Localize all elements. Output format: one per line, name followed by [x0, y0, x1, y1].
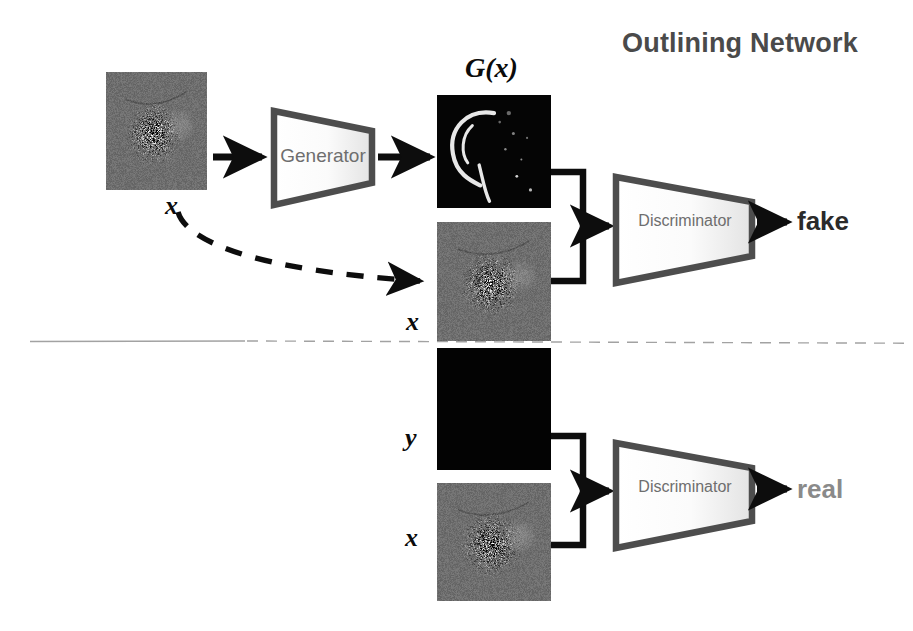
verdict-fake: fake: [797, 206, 849, 237]
bracket-top: [551, 172, 609, 281]
discriminator-node-real[interactable]: [616, 443, 752, 548]
image-ground-truth-y: [437, 348, 551, 470]
page-title: Outlining Network: [622, 28, 858, 59]
caption-gx: G(x): [465, 52, 518, 84]
image-generated-gx: [437, 95, 551, 208]
image-input-x-top: [106, 72, 207, 190]
branch-divider: [30, 341, 905, 343]
generator-node[interactable]: [274, 111, 372, 205]
caption-x-middle: x: [406, 307, 419, 337]
image-paired-x-bottom: [437, 483, 551, 601]
caption-y-bottom: y: [405, 423, 417, 453]
verdict-real: real: [797, 474, 843, 505]
skip-connection-dashed: [178, 212, 420, 281]
caption-x-bottom: x: [405, 523, 418, 553]
diagram-canvas: Outlining Network Generator Discriminato…: [0, 0, 913, 631]
discriminator-node-fake[interactable]: [616, 177, 752, 283]
caption-x-input: x: [165, 191, 178, 221]
image-paired-x-top: [437, 222, 551, 341]
bracket-bottom: [551, 436, 609, 545]
